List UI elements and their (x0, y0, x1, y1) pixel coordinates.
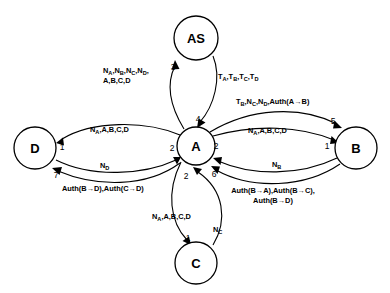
edge-a-to-as-path (170, 66, 184, 129)
step-number-a-to-b-lower: 1 (325, 141, 330, 151)
diagram-canvas: AS A D B C 3 4 5 1 2 6 1 2 7 1 2 (0, 0, 390, 293)
node-as-label: AS (187, 31, 205, 46)
node-c-label: C (191, 256, 201, 271)
step-number-as-to-a: 4 (196, 114, 201, 124)
node-a-label: A (191, 139, 201, 154)
edge-d-to-a-nd-path (56, 160, 176, 172)
edge-label-b-to-a-nb: NB (272, 160, 281, 170)
edge-label-a-to-b-lower: NA,A,B,C,D (248, 126, 287, 136)
node-a[interactable]: A (177, 127, 215, 165)
edge-label-a-to-d: NA,A,B,C,D (90, 125, 129, 135)
edge-label-a-to-c: NA,A,B,C,D (152, 212, 191, 222)
edge-label-a-to-d-auth: Auth(B→D),Auth(C→D) (62, 184, 144, 194)
step-number-a-to-d: 1 (60, 142, 65, 152)
edge-as-to-a-path (200, 56, 217, 122)
edge-label-a-to-b-upper: TB,NC,ND,Auth(A→B) (236, 97, 309, 107)
edge-label-d-to-a-nd: ND (100, 161, 109, 171)
step-number-a-to-d-auth: 7 (54, 170, 59, 180)
edge-label-c-to-a: NC (213, 225, 222, 235)
node-b-label: B (351, 141, 360, 156)
edge-d-to-a-nd (56, 157, 181, 172)
node-b[interactable]: B (335, 127, 377, 169)
step-number-c-to-a: 2 (184, 171, 189, 181)
step-number-a-to-c: 1 (186, 233, 191, 243)
node-as[interactable]: AS (174, 16, 218, 60)
step-number-b-to-a-nb: 2 (214, 141, 219, 151)
edge-b-to-a-nb-arrowhead (213, 157, 222, 165)
node-c[interactable]: C (175, 242, 217, 284)
step-number-d-to-a-nd: 2 (170, 143, 175, 153)
edge-label-as-to-a: TA,TB,TC,TD (218, 72, 258, 82)
edge-label-a-to-as: NA,NB,NC,ND,A,B,C,D (103, 66, 149, 86)
step-number-b-to-a-auth: 6 (212, 169, 217, 179)
step-number-a-to-b-upper: 5 (331, 116, 336, 126)
node-d[interactable]: D (14, 127, 56, 169)
step-number-a-to-as: 3 (171, 62, 176, 72)
protocol-diagram: AS A D B C 3 4 5 1 2 6 1 2 7 1 2 NA,NB,N (0, 0, 390, 293)
node-d-label: D (30, 141, 39, 156)
edge-label-b-to-a-auth: Auth(B→A),Auth(B→C),Auth(B→D) (208, 186, 338, 206)
